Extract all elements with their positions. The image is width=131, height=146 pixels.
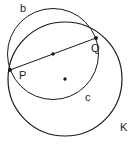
label-q: Q — [91, 42, 100, 54]
label-k: K — [120, 121, 128, 133]
geometry-diagram: b K P Q c — [0, 0, 131, 146]
midpoint-dot — [51, 52, 54, 55]
label-c: c — [85, 91, 91, 103]
center-dot — [63, 77, 66, 80]
label-b: b — [20, 2, 26, 14]
point-q — [94, 36, 98, 40]
label-p: P — [19, 69, 26, 81]
point-p — [8, 68, 12, 72]
